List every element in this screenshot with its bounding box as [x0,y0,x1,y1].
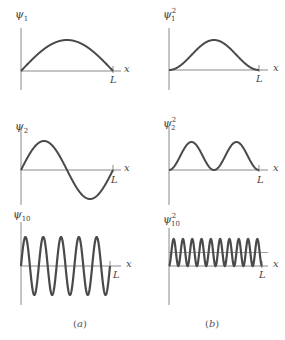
L-label: L [110,75,117,85]
label-psi-2-squared: ψ22 [163,117,176,132]
x-axis-label: x [273,163,279,173]
plot-canvas [0,0,285,340]
probability-density-curve [169,40,259,70]
x-axis-label: x [124,64,130,74]
label-psi-1-squared: ψ21 [163,8,176,23]
label-psi-10: ψ10 [13,209,31,223]
x-axis-label: x [124,163,130,173]
label-psi-1: ψ1 [15,9,28,23]
caption-a: (a) [73,318,87,329]
x-axis-label: x [126,259,132,269]
L-label: L [256,74,263,84]
wavefunction-curve [21,40,113,71]
probability-density-curve [169,142,259,170]
label-psi-2: ψ2 [15,121,28,135]
L-label: L [259,270,266,280]
L-label: L [113,270,120,280]
caption-b: (b) [205,318,219,329]
x-axis-label: x [273,259,279,269]
wavefunction-figure: ψ1 ψ2 ψ10 ψ21 ψ22 ψ210 x x x x x x L L L… [0,0,285,340]
x-axis-label: x [273,63,279,73]
label-psi-10-squared: ψ210 [163,213,180,228]
L-label: L [111,175,118,185]
L-label: L [257,175,264,185]
